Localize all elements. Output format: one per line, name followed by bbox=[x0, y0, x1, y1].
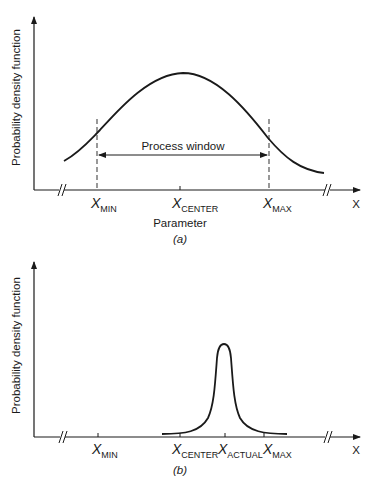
x-axis-end-label: X bbox=[352, 198, 360, 210]
tick-label-xmin: XMIN bbox=[90, 195, 117, 214]
tick-label-xcenter: XCENTER bbox=[171, 195, 219, 214]
y-axis-label: Probability density function bbox=[10, 29, 22, 166]
panel-caption-b: (b) bbox=[173, 464, 187, 476]
broad-distribution-curve bbox=[64, 73, 324, 173]
panel-b: Probability density function XMIN XCENTE… bbox=[10, 262, 360, 476]
narrow-distribution-curve bbox=[162, 344, 287, 434]
tick-label-xactual: XACTUAL bbox=[217, 441, 263, 460]
y-axis-label: Probability density function bbox=[10, 277, 22, 414]
panel-caption-a: (a) bbox=[173, 233, 187, 245]
panel-a: Probability density function Process win… bbox=[10, 17, 360, 245]
tick-label-xmax: XMAX bbox=[262, 195, 292, 214]
tick-label-xmin: XMIN bbox=[91, 441, 118, 460]
x-axis-end-label: X bbox=[352, 444, 360, 456]
tick-label-xcenter: XCENTER bbox=[171, 441, 219, 460]
tick-label-xmax: XMAX bbox=[262, 441, 292, 460]
x-axis-label: Parameter bbox=[153, 217, 207, 229]
process-window-label: Process window bbox=[141, 140, 225, 152]
figure: Probability density function Process win… bbox=[0, 0, 373, 488]
